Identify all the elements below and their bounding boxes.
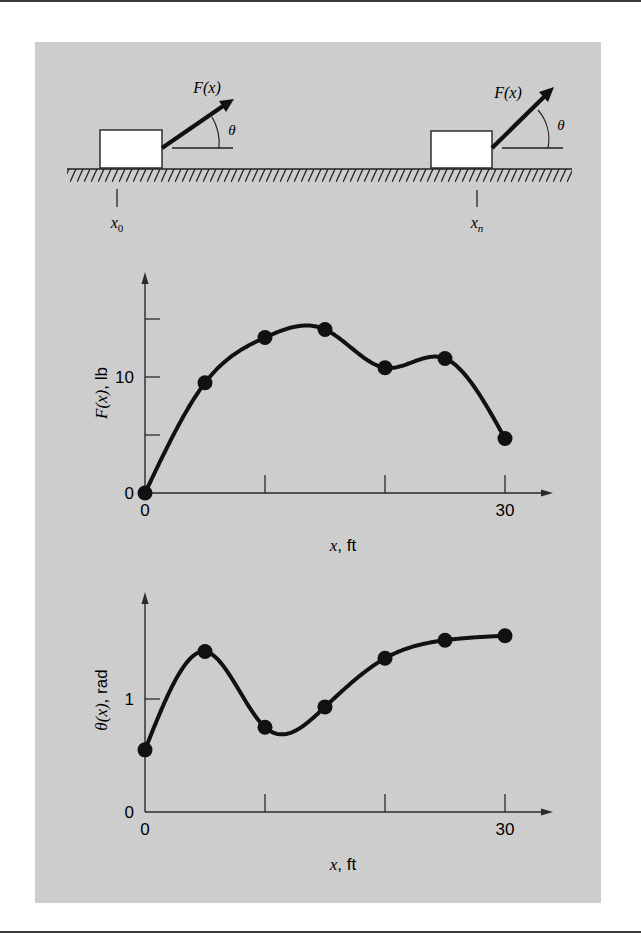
angle-chart-x-label: x, ft — [329, 855, 357, 874]
ground-hatching — [67, 169, 572, 182]
angle-chart-xtick-label-30: 30 — [496, 820, 515, 839]
force-chart-xtick-label-0: 0 — [140, 501, 149, 520]
force-chart-y-label: F(x), lb — [92, 367, 111, 420]
data-point — [138, 486, 153, 501]
force-chart-xtick-label-30: 30 — [496, 501, 515, 520]
force-chart-ytick-label-0: 0 — [125, 484, 134, 503]
angle-label-start: θ — [228, 122, 236, 138]
force-chart-x-label: x, ft — [329, 536, 357, 555]
data-point — [378, 651, 393, 666]
data-point — [258, 720, 273, 735]
angle-label-end: θ — [557, 117, 565, 133]
angle-chart-xtick-label-0: 0 — [140, 820, 149, 839]
data-point — [438, 351, 453, 366]
force-label-start: F(x) — [192, 79, 221, 97]
data-point — [198, 375, 213, 390]
block-end-box — [431, 131, 492, 168]
force-label-end: F(x) — [493, 84, 522, 102]
block-start-box — [100, 130, 162, 168]
data-point — [258, 330, 273, 345]
angle-chart-ytick-label-0: 0 — [125, 803, 134, 822]
data-point — [498, 628, 513, 643]
force-chart-ytick-label-10: 10 — [115, 368, 134, 387]
data-point — [198, 644, 213, 659]
data-point — [318, 322, 333, 337]
data-point — [138, 742, 153, 757]
data-point — [378, 360, 393, 375]
angle-chart-ytick-label-1: 1 — [125, 690, 134, 709]
angle-chart-y-label: θ(x), rad — [92, 669, 111, 730]
data-point — [318, 699, 333, 714]
figure: F(x) θ x0 F(x) θ xn 0 10 0 30 — [0, 0, 641, 949]
data-point — [438, 633, 453, 648]
data-point — [498, 431, 513, 446]
